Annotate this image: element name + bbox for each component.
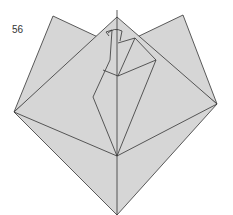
origami-diagram [0,0,233,215]
